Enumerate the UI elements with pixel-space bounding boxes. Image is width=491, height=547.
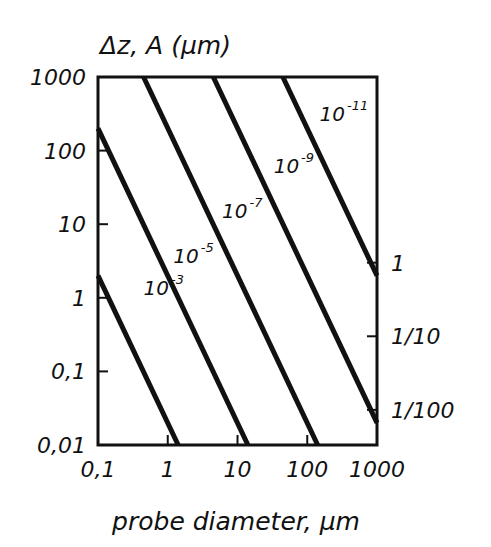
y-tick-label: 1000 xyxy=(30,65,86,90)
series-label: 10-9 xyxy=(274,150,314,178)
series-label-exponent: -11 xyxy=(347,98,368,113)
series-label-base: 10 xyxy=(274,154,299,178)
series-label: 10-7 xyxy=(222,195,263,223)
series-label-exponent: -5 xyxy=(201,240,214,255)
y-tick-label: 1 xyxy=(72,286,86,311)
probe-diameter-chart: Δz, A (μm) probe diameter, μm 0,11101001… xyxy=(0,0,491,547)
series-label-base: 10 xyxy=(144,276,169,300)
series-lines xyxy=(98,77,377,445)
y2-tick-label: 1/100 xyxy=(391,398,454,423)
series-label-exponent: -9 xyxy=(301,150,314,165)
series-label-exponent: -7 xyxy=(249,195,263,210)
y-tick-label: 0,01 xyxy=(37,433,86,458)
series-labels: 10-310-510-710-910-11 xyxy=(144,98,369,299)
x-ticks: 0,11101001000 xyxy=(81,435,406,482)
series-line-10^-9 xyxy=(213,77,377,423)
series-label: 10-11 xyxy=(320,98,369,126)
y-tick-label: 10 xyxy=(58,212,86,237)
x-tick-label: 100 xyxy=(286,457,328,482)
x-tick-label: 10 xyxy=(224,457,252,482)
series-label-exponent: -3 xyxy=(171,272,184,287)
y-tick-label: 100 xyxy=(44,139,86,164)
series-label: 10-5 xyxy=(173,240,213,268)
series-line-10^-7 xyxy=(144,77,318,445)
y2-tick-label: 1/10 xyxy=(391,324,440,349)
x-tick-label: 1 xyxy=(161,457,175,482)
x-axis-title: probe diameter, μm xyxy=(111,507,360,536)
series-line-10^-3 xyxy=(98,276,178,445)
y2-ticks: 11/101/100 xyxy=(367,251,454,423)
y-axis-title: Δz, A (μm) xyxy=(98,31,231,60)
y2-tick-label: 1 xyxy=(391,251,405,276)
y-ticks: 0,010,11101001000 xyxy=(30,65,108,458)
x-tick-label: 0,1 xyxy=(81,457,116,482)
y-tick-label: 0,1 xyxy=(51,359,86,384)
series-label-base: 10 xyxy=(173,244,198,268)
series-label-base: 10 xyxy=(222,199,247,223)
x-tick-label: 1000 xyxy=(349,457,405,482)
series-label-base: 10 xyxy=(320,102,345,126)
